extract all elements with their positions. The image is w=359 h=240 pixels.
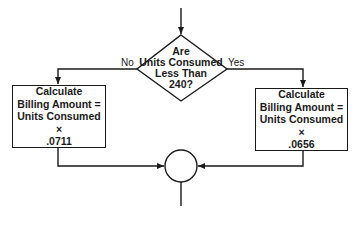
decision-line-4: 240? — [131, 79, 231, 90]
right-process-line-2: Billing Amount = — [260, 101, 343, 114]
left-process-line-2: Billing Amount = — [17, 98, 100, 111]
left-process-line-4: .0711 — [46, 135, 72, 148]
right-process-line-3: Units Consumed × — [256, 113, 347, 138]
right-process-box: Calculate Billing Amount = Units Consume… — [255, 88, 348, 151]
left-process-box: Calculate Billing Amount = Units Consume… — [12, 85, 106, 148]
right-process-line-1: Calculate — [278, 88, 325, 101]
connector-circle — [165, 150, 197, 182]
left-merge-line — [58, 147, 164, 166]
yes-label: Yes — [228, 57, 244, 68]
left-process-line-1: Calculate — [36, 85, 83, 98]
yes-branch-line — [227, 69, 303, 87]
right-process-line-4: .0656 — [288, 138, 314, 151]
no-label: No — [121, 57, 134, 68]
right-merge-line — [198, 150, 303, 166]
decision-text: Are Units Consumed Less Than 240? — [131, 46, 231, 90]
no-branch-line — [58, 69, 137, 84]
left-process-line-3: Units Consumed × — [13, 110, 105, 135]
